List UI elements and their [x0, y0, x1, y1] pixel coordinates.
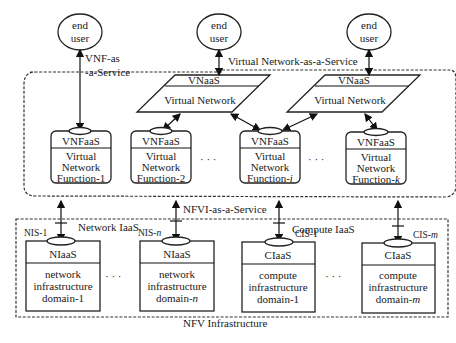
svg-text:end: end	[211, 19, 227, 31]
network-infra-domain-n: NIS-n NIaaS network infrastructure domai…	[138, 228, 214, 311]
svg-text:NIaaS: NIaaS	[163, 248, 191, 260]
vnf-block-k: VNFaaS Virtual Network Function-k	[346, 129, 406, 186]
compute-infra-domain-m: CIS-m CIaaS compute infrastructure domai…	[362, 230, 438, 313]
svg-text:CIS-m: CIS-m	[413, 230, 438, 240]
vnf-as-a-service-label: VNF-as	[85, 52, 120, 64]
vnf-ellipsis-1: · · ·	[200, 153, 217, 165]
vnf-as-a-service-label-2: -a-Service	[85, 66, 130, 78]
nfv-infrastructure-label: NFV Infrastructure	[183, 317, 268, 329]
svg-text:infrastructure: infrastructure	[33, 280, 92, 292]
nfv-service-diagram: end user end user end user VNF-as -a-Ser…	[0, 0, 456, 343]
vnaas-block-2: VNaaS Virtual Network	[287, 74, 420, 112]
svg-text:domain-1: domain-1	[42, 292, 84, 304]
vnaas-region-label: Virtual Network-as-a-Service	[228, 55, 358, 67]
vnaas-block-1: VNaaS Virtual Network	[137, 74, 270, 112]
svg-text:domain-m: domain-m	[376, 293, 421, 305]
vnf-block-i: VNFaaS Virtual Network Function-i	[240, 128, 300, 185]
svg-text:VNFaaS: VNFaaS	[62, 135, 100, 147]
svg-text:end: end	[72, 19, 88, 31]
infra-ellipsis-1: · · ·	[105, 270, 122, 282]
network-infra-domain-1: NIS-1 NIaaS network infrastructure domai…	[24, 228, 100, 311]
end-user-1: end user	[58, 14, 102, 50]
svg-text:Virtual Network: Virtual Network	[164, 94, 236, 106]
svg-text:Virtual Network: Virtual Network	[314, 94, 386, 106]
svg-text:infrastructure: infrastructure	[248, 281, 307, 293]
svg-text:infrastructure: infrastructure	[368, 281, 427, 293]
nfvi-as-a-service-label: NFVI-as-a-Service	[183, 203, 267, 215]
svg-text:Function-k: Function-k	[352, 173, 401, 185]
svg-text:user: user	[71, 32, 90, 44]
vnf-ellipsis-2: · · ·	[308, 153, 325, 165]
svg-text:VNaaS: VNaaS	[338, 74, 370, 86]
svg-text:network: network	[45, 268, 82, 280]
svg-text:CIS-1: CIS-1	[295, 229, 318, 239]
end-user-2: end user	[197, 14, 241, 50]
svg-text:NIaaS: NIaaS	[49, 248, 77, 260]
svg-text:compute: compute	[259, 269, 297, 281]
svg-text:CIaaS: CIaaS	[265, 249, 292, 261]
svg-text:Function-1: Function-1	[57, 172, 105, 184]
svg-text:network: network	[159, 268, 196, 280]
svg-text:CIaaS: CIaaS	[385, 249, 412, 261]
vnf-block-2: VNFaaS Virtual Network Function-2	[131, 128, 191, 185]
vnf-block-1: VNFaaS Virtual Network Function-1	[51, 128, 111, 185]
svg-text:infrastructure: infrastructure	[147, 280, 206, 292]
svg-text:NIS-1: NIS-1	[24, 228, 47, 238]
svg-text:VNFaaS: VNFaaS	[142, 135, 180, 147]
svg-text:domain-1: domain-1	[257, 293, 299, 305]
network-iaas-label: Network IaaS	[78, 221, 139, 233]
svg-text:domain-n: domain-n	[156, 292, 199, 304]
infra-ellipsis-2: · · ·	[325, 270, 342, 282]
end-user-3: end user	[347, 14, 391, 50]
svg-text:user: user	[360, 32, 379, 44]
svg-text:VNFaaS: VNFaaS	[251, 135, 289, 147]
svg-text:compute: compute	[379, 269, 417, 281]
svg-text:Function-i: Function-i	[247, 172, 293, 184]
svg-text:end: end	[361, 19, 377, 31]
compute-infra-domain-1: CIS-1 CIaaS compute infrastructure domai…	[242, 229, 318, 312]
svg-text:user: user	[210, 32, 229, 44]
svg-text:NIS-n: NIS-n	[138, 228, 161, 238]
svg-text:Function-2: Function-2	[137, 172, 185, 184]
svg-text:VNaaS: VNaaS	[188, 74, 220, 86]
svg-text:VNFaaS: VNFaaS	[357, 136, 395, 148]
